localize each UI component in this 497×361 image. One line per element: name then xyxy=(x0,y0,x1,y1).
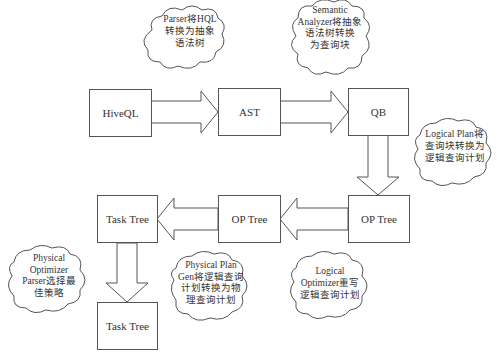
node-label: HiveQL xyxy=(102,107,138,119)
annotation-parser: Parser将HQL 转换为抽象 语法树 xyxy=(148,13,232,49)
node-label: OP Tree xyxy=(361,213,397,225)
annotation-physical-optimizer: Physical Optimizer Parser选择最 佳策略 xyxy=(6,253,92,299)
node-op-tree-right: OP Tree xyxy=(348,195,410,243)
node-ast: AST xyxy=(218,88,281,136)
annotation-logical-optimizer: Logical Optimizer重写 逻辑查询计划 xyxy=(288,265,372,301)
arrow-ast-to-qb xyxy=(280,91,348,133)
annotation-physical-plan-gen: Physical Plan Gen将逻辑查询 计划转换为物 理查询计划 xyxy=(168,260,254,306)
node-label: Task Tree xyxy=(106,213,149,225)
arrow-optree-to-tasktree xyxy=(157,198,218,240)
arrow-qb-to-optree xyxy=(357,135,399,195)
node-hiveql: HiveQL xyxy=(89,89,152,137)
node-task-tree-top: Task Tree xyxy=(97,195,158,243)
node-label: OP Tree xyxy=(232,213,268,225)
diagram-canvas xyxy=(0,0,497,361)
annotation-semantic-analyzer: Semantic Analyzer将抽象 语法树转换 为查询块 xyxy=(282,5,378,51)
arrow-hiveql-to-ast xyxy=(151,91,218,133)
annotation-logical-plan: Logical Plan将 查询块转换为 逻辑查询计划 xyxy=(412,128,497,164)
node-label: AST xyxy=(239,106,260,118)
node-label: Task Tree xyxy=(106,320,149,332)
node-qb: QB xyxy=(348,88,409,136)
node-task-tree-bottom: Task Tree xyxy=(97,302,158,350)
arrow-optree-to-optree xyxy=(280,198,348,240)
node-op-tree-mid: OP Tree xyxy=(218,195,281,243)
node-label: QB xyxy=(371,106,386,118)
arrow-tasktree-to-tasktree xyxy=(106,243,148,302)
